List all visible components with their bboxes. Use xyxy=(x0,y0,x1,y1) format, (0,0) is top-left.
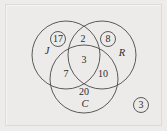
region-value-C-only: 20 xyxy=(79,86,89,97)
region-value-J-only: 17 xyxy=(53,33,63,44)
region-value-R-and-C: 10 xyxy=(98,68,108,79)
venn-plot-area: 17283710203 JRC xyxy=(0,0,167,131)
set-label-r: R xyxy=(118,47,126,58)
region-value-universe: 3 xyxy=(139,99,144,110)
region-value-R-only: 8 xyxy=(106,33,111,44)
set-circle-r xyxy=(68,21,136,89)
set-circle-j xyxy=(32,21,100,89)
venn-svg: 17283710203 JRC xyxy=(0,0,167,131)
region-value-J-R-C: 3 xyxy=(82,54,87,65)
region-value-J-and-C: 7 xyxy=(64,68,69,79)
venn-diagram-figure: 17283710203 JRC xyxy=(0,0,167,131)
set-label-c: C xyxy=(81,98,89,109)
set-label-j: J xyxy=(45,45,51,56)
region-value-J-and-R: 2 xyxy=(81,33,86,44)
